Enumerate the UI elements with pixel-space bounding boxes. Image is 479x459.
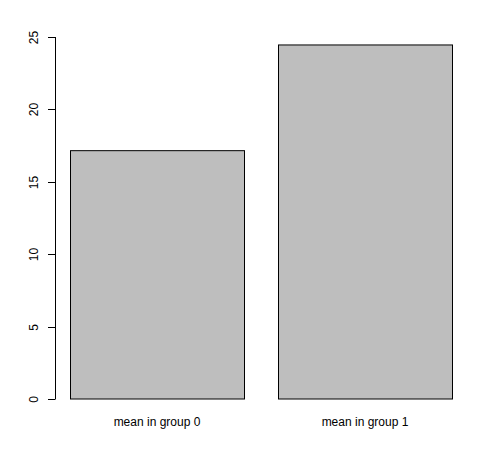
bars-group xyxy=(71,45,453,399)
y-axis: 0510152025 xyxy=(27,31,56,403)
bar-chart: 0510152025 mean in group 0mean in group … xyxy=(0,0,479,459)
x-category-label: mean in group 1 xyxy=(322,415,409,429)
y-tick-label: 10 xyxy=(27,248,41,262)
bar-0 xyxy=(71,151,245,399)
y-tick-label: 5 xyxy=(27,324,41,331)
y-tick-label: 0 xyxy=(27,396,41,403)
y-tick-label: 15 xyxy=(27,176,41,190)
x-axis-labels: mean in group 0mean in group 1 xyxy=(114,415,409,429)
y-tick-label: 20 xyxy=(27,103,41,117)
bar-1 xyxy=(279,45,453,399)
x-category-label: mean in group 0 xyxy=(114,415,201,429)
y-tick-label: 25 xyxy=(27,31,41,45)
